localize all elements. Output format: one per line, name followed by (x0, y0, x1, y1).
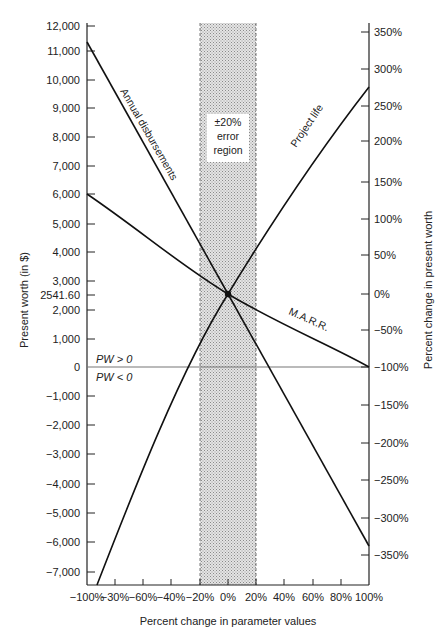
svg-text:−4,000: −4,000 (46, 478, 80, 490)
pw-positive-label: PW > 0 (96, 353, 133, 365)
svg-text:2,000: 2,000 (52, 304, 80, 316)
svg-text:150%: 150% (374, 176, 402, 188)
svg-text:10,000: 10,000 (46, 74, 80, 86)
sensitivity-chart: ±20% error region 12,000 11,000 10 (0, 0, 448, 641)
svg-text:−6,000: −6,000 (46, 536, 80, 548)
svg-text:0%: 0% (220, 591, 236, 603)
svg-text:100%: 100% (374, 213, 402, 225)
svg-text:−5,000: −5,000 (46, 507, 80, 519)
svg-text:9,000: 9,000 (52, 102, 80, 114)
label-annual-disbursements: Annual disbursements (118, 86, 180, 182)
svg-text:−100%: −100% (70, 591, 105, 603)
svg-text:6,000: 6,000 (52, 188, 80, 200)
svg-text:−40%: −40% (157, 591, 186, 603)
pw-negative-label: PW < 0 (96, 371, 133, 383)
svg-text:−3,000: −3,000 (46, 448, 80, 460)
y-axis-right (361, 32, 369, 555)
svg-text:350%: 350% (374, 26, 402, 38)
y-tick-labels: 12,000 11,000 10,000 9,000 8,000 7,000 6… (40, 20, 80, 578)
svg-text:300%: 300% (374, 63, 402, 75)
y-axis-title: Present worth (in $) (18, 252, 30, 348)
svg-text:1,000: 1,000 (52, 333, 80, 345)
svg-text:7,000: 7,000 (52, 160, 80, 172)
svg-text:−300%: −300% (374, 512, 409, 524)
svg-text:2541.60: 2541.60 (40, 289, 80, 301)
label-project-life: Project life (288, 102, 325, 149)
y-axis-left (87, 26, 95, 572)
svg-text:3,000: 3,000 (52, 275, 80, 287)
svg-text:60%: 60% (302, 591, 324, 603)
svg-text:4,000: 4,000 (52, 246, 80, 258)
x-axis (115, 579, 341, 585)
svg-text:0%: 0% (374, 288, 390, 300)
svg-text:−350%: −350% (374, 549, 409, 561)
svg-text:5,000: 5,000 (52, 218, 80, 230)
svg-text:−30%: −30% (101, 591, 130, 603)
error-region: ±20% error region (200, 23, 256, 585)
region-label-3: region (213, 144, 242, 156)
svg-text:0: 0 (74, 361, 80, 373)
svg-text:−50%: −50% (374, 324, 403, 336)
svg-text:−250%: −250% (374, 474, 409, 486)
y2-tick-labels: 350% 300% 250% 200% 150% 100% 50% 0% −50… (374, 26, 409, 561)
svg-text:−100%: −100% (374, 361, 409, 373)
svg-text:8,000: 8,000 (52, 131, 80, 143)
svg-text:12,000: 12,000 (46, 20, 80, 32)
y2-axis-title: Percent change in present worth (422, 211, 434, 369)
svg-text:250%: 250% (374, 100, 402, 112)
region-label-1: ±20% (215, 116, 242, 128)
svg-text:−150%: −150% (374, 399, 409, 411)
svg-text:−200%: −200% (374, 437, 409, 449)
svg-text:80%: 80% (330, 591, 352, 603)
svg-text:40%: 40% (273, 591, 295, 603)
svg-text:11,000: 11,000 (47, 45, 80, 57)
region-label-2: error (217, 130, 240, 142)
svg-text:20%: 20% (245, 591, 267, 603)
svg-text:−2,000: −2,000 (46, 419, 80, 431)
x-axis-title: Percent change in parameter values (140, 615, 317, 627)
x-tick-labels: −100% −30% −60% −40% −20% 0% 20% 40% 60%… (70, 591, 384, 603)
svg-text:50%: 50% (374, 249, 396, 261)
svg-text:−60%: −60% (129, 591, 158, 603)
svg-text:100%: 100% (355, 591, 383, 603)
svg-text:200%: 200% (374, 135, 402, 147)
svg-text:−1,000: −1,000 (46, 390, 80, 402)
base-point (225, 291, 231, 297)
svg-text:−20%: −20% (186, 591, 215, 603)
svg-text:−7,000: −7,000 (46, 566, 80, 578)
